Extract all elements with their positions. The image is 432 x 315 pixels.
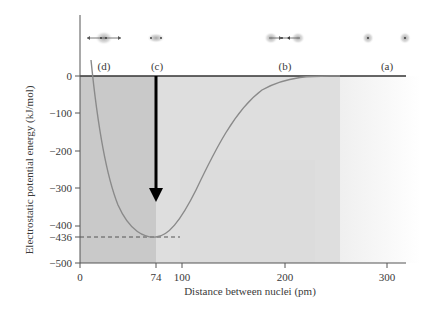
y-axis-title: Electrostatic potential energy (kJ/mol) <box>23 85 36 254</box>
region-inner-shade <box>180 160 315 263</box>
region-label-a: (a) <box>381 60 394 73</box>
x-ticks <box>80 263 387 268</box>
y-ticks <box>75 76 80 263</box>
x-tick-label-0: 0 <box>77 271 83 283</box>
x-tick-label-100: 100 <box>174 271 191 283</box>
x-tick-label-74: 74 <box>151 271 163 283</box>
potential-energy-chart: (d) (c) (b) (a) 0 −100 −200 −300 −400 −4… <box>0 0 432 315</box>
x-tick-label-300: 300 <box>379 271 396 283</box>
region-a-shade <box>340 76 420 263</box>
y-tick-label-200: −200 <box>49 145 72 157</box>
atom-illustrations <box>87 31 411 45</box>
region-label-d: (d) <box>98 60 111 73</box>
y-tick-label-300: −300 <box>49 182 72 194</box>
x-axis-title: Distance between nuclei (pm) <box>184 285 316 298</box>
y-tick-label-0: 0 <box>67 70 73 82</box>
y-tick-label-436: −436 <box>49 231 72 243</box>
region-label-c: (c) <box>151 60 164 73</box>
region-label-b: (b) <box>279 60 292 73</box>
y-tick-label-100: −100 <box>49 107 72 119</box>
y-tick-label-400: −400 <box>49 219 72 231</box>
x-tick-label-200: 200 <box>277 271 294 283</box>
y-tick-label-500: −500 <box>49 257 72 269</box>
